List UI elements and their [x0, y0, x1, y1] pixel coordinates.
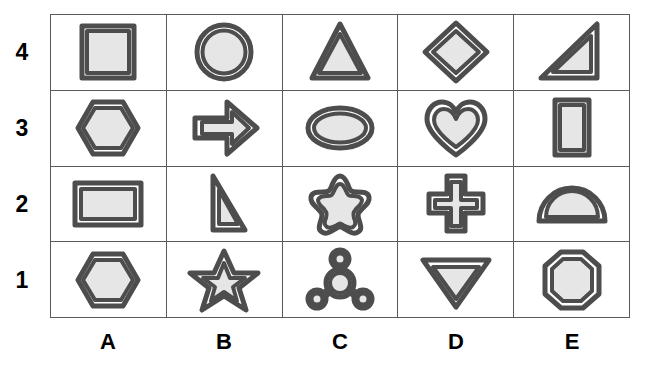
shape-rounded-star	[295, 171, 385, 237]
cell-C4[interactable]	[283, 15, 399, 91]
cell-C1[interactable]	[283, 242, 399, 318]
shape-semicircle	[527, 171, 617, 237]
cell-B4[interactable]	[167, 15, 283, 91]
shape-hexagon	[63, 95, 153, 161]
column-label-A: A	[50, 322, 166, 362]
shape-grid-figure: 4 3 2 1	[0, 0, 647, 373]
shape-right-triangle-narrow	[179, 171, 269, 237]
column-label-B: B	[166, 322, 282, 362]
shape-hexagon	[63, 247, 153, 313]
row-label-1: 1	[0, 242, 50, 318]
cell-A1[interactable]	[51, 242, 167, 318]
cell-B2[interactable]	[167, 167, 283, 243]
cell-D3[interactable]	[398, 91, 514, 167]
row-label-4: 4	[0, 14, 50, 90]
cell-E3[interactable]	[514, 91, 630, 167]
column-label-E: E	[514, 322, 630, 362]
column-label-axis: A B C D E	[50, 322, 630, 362]
cell-E2[interactable]	[514, 167, 630, 243]
cell-E1[interactable]	[514, 242, 630, 318]
cell-D1[interactable]	[398, 242, 514, 318]
shape-right-triangle	[527, 19, 617, 85]
shape-right-arrow	[179, 95, 269, 161]
row-label-3: 3	[0, 90, 50, 166]
cell-A4[interactable]	[51, 15, 167, 91]
cell-D2[interactable]	[398, 167, 514, 243]
shape-molecule	[295, 247, 385, 313]
column-label-C: C	[282, 322, 398, 362]
cell-B1[interactable]	[167, 242, 283, 318]
column-label-D: D	[398, 322, 514, 362]
shape-cross	[411, 171, 501, 237]
cell-A3[interactable]	[51, 91, 167, 167]
shape-square	[63, 19, 153, 85]
cell-C2[interactable]	[283, 167, 399, 243]
cell-D4[interactable]	[398, 15, 514, 91]
row-label-2: 2	[0, 166, 50, 242]
shape-octagon	[527, 247, 617, 313]
shape-diamond	[411, 19, 501, 85]
shape-heart	[411, 95, 501, 161]
cell-B3[interactable]	[167, 91, 283, 167]
cell-C3[interactable]	[283, 91, 399, 167]
shape-rectangle-vertical	[527, 95, 617, 161]
shape-circle	[179, 19, 269, 85]
shape-star	[179, 247, 269, 313]
shape-grid	[50, 14, 630, 318]
row-label-axis: 4 3 2 1	[0, 14, 50, 318]
shape-triangle	[295, 19, 385, 85]
shape-inverted-triangle	[411, 247, 501, 313]
shape-ellipse	[295, 95, 385, 161]
cell-A2[interactable]	[51, 167, 167, 243]
shape-rectangle-horizontal	[63, 171, 153, 237]
cell-E4[interactable]	[514, 15, 630, 91]
